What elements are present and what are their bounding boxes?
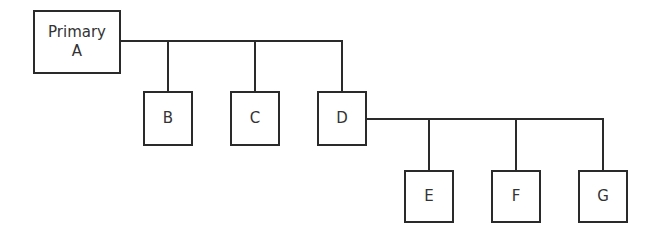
node-d: D: [317, 91, 367, 146]
node-g-label: G: [597, 187, 609, 206]
connector-d-bus: [366, 118, 604, 120]
connector-e: [428, 118, 430, 171]
node-c-label: C: [250, 109, 260, 128]
node-e: E: [404, 170, 454, 223]
connector-c: [254, 40, 256, 92]
node-f-label: F: [512, 187, 521, 206]
connector-d: [341, 40, 343, 92]
node-e-label: E: [424, 187, 433, 206]
node-g: G: [578, 170, 628, 223]
connector-b: [167, 40, 169, 92]
node-primary-a-label-line2: A: [72, 42, 82, 61]
connector-f: [515, 118, 517, 171]
node-f: F: [491, 170, 541, 223]
node-b-label: B: [163, 109, 173, 128]
node-b: B: [143, 91, 193, 146]
node-primary-a-label-line1: Primary: [48, 23, 106, 42]
connector-g: [602, 118, 604, 171]
node-c: C: [230, 91, 280, 146]
node-d-label: D: [336, 109, 348, 128]
connector-root-bus: [120, 40, 343, 42]
node-primary-a: Primary A: [33, 10, 121, 74]
